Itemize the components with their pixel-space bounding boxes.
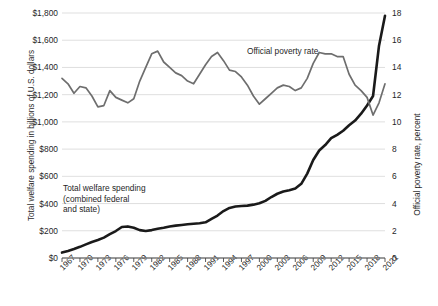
welfare-spending-poverty-chart: Total welfare spending in billions of U.… [0, 0, 438, 306]
spending-annotation: Total welfare spending (combined federal… [63, 183, 146, 215]
plot-area [0, 0, 438, 306]
poverty-rate-line [62, 51, 385, 115]
spending-line [62, 16, 385, 253]
poverty-annotation: Official poverty rate [247, 46, 318, 57]
